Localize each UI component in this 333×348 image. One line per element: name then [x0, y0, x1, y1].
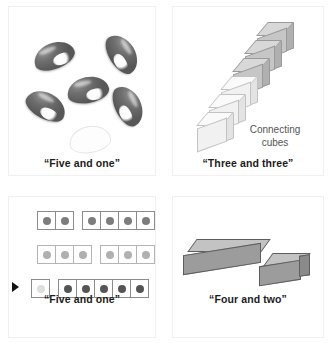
dot-rows-panel: “Five and one” [8, 196, 156, 338]
dot-cell [100, 211, 119, 230]
dot [142, 251, 150, 259]
bean [100, 29, 144, 78]
bar-stage [173, 197, 323, 337]
dot [43, 217, 51, 225]
dot [106, 251, 114, 259]
connecting-cubes-label-line1: Connecting [229, 123, 321, 136]
dot-cell [136, 211, 155, 230]
dot [136, 285, 144, 293]
figure-sheet: “Five and one” [0, 0, 333, 348]
bean-outline [67, 123, 113, 157]
dot [88, 217, 96, 225]
dot [61, 251, 69, 259]
dot [100, 285, 108, 293]
panel-caption: “Four and two” [173, 293, 323, 305]
cube [197, 115, 227, 145]
dot-cell [118, 245, 137, 264]
dot-cell [118, 211, 137, 230]
dot [64, 285, 72, 293]
dot-group-right [82, 211, 154, 230]
dot-row [37, 211, 154, 230]
bean [107, 81, 149, 130]
panel-caption: “Five and one” [9, 157, 155, 169]
dot-row [37, 245, 154, 264]
dot [142, 217, 150, 225]
bean [65, 73, 111, 107]
dot [124, 217, 132, 225]
row-pointer-triangle-icon [12, 282, 19, 292]
dot-cell [55, 211, 74, 230]
dot [124, 251, 132, 259]
dot-cell [55, 245, 74, 264]
panel-caption: “Five and one” [9, 293, 155, 305]
dot-cell [82, 211, 101, 230]
dot-cell [100, 245, 119, 264]
dot [79, 251, 87, 259]
bean [21, 85, 70, 128]
panel-caption: “Three and three” [173, 157, 323, 169]
dot [37, 285, 45, 293]
dot-group-right [100, 245, 154, 264]
connecting-cubes-label: Connecting cubes [229, 123, 321, 149]
dot [106, 217, 114, 225]
bar-right-face [299, 254, 310, 277]
dot-cell [73, 245, 92, 264]
bean [30, 36, 79, 76]
beans-panel: “Five and one” [8, 6, 156, 176]
dot [43, 251, 51, 259]
dot-group-left [37, 245, 91, 264]
dot-cell [37, 211, 56, 230]
bar-panel: “Four and two” [172, 196, 324, 338]
dot-cell [136, 245, 155, 264]
dot [82, 285, 90, 293]
dot-cell [37, 245, 56, 264]
beans-stage [9, 7, 155, 149]
dot [61, 217, 69, 225]
connecting-cubes-label-line2: cubes [229, 136, 321, 149]
dot [118, 285, 126, 293]
cube-tower [173, 7, 323, 175]
dot-group-left [37, 211, 73, 230]
cubes-panel: Connecting cubes “Three and three” [172, 6, 324, 176]
